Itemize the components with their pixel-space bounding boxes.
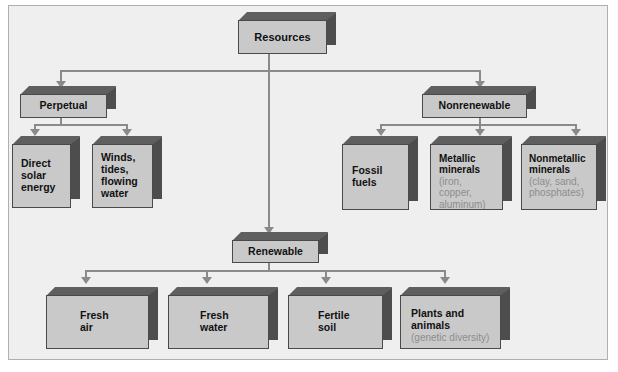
arrow-fresh-air	[81, 277, 91, 284]
node-plants-and-animals[interactable]: Plants and animals (genetic diversity)	[400, 287, 510, 349]
box-front-face: Nonmetallic minerals (clay, sand, phosph…	[521, 144, 597, 210]
connector-root-trunk	[268, 54, 270, 71]
box-front-face: Fresh water	[168, 295, 269, 349]
node-label-metallic-minerals: Metallic minerals	[439, 153, 502, 176]
connector-level1-bus	[60, 70, 481, 72]
node-nonrenewable[interactable]: Nonrenewable	[422, 86, 536, 118]
connector-perpetual-bus	[34, 124, 128, 126]
arrow-winds-tides-flowing-water	[122, 129, 132, 136]
node-label-nonmetallic-minerals: Nonmetallic minerals	[529, 153, 596, 176]
node-direct-solar-energy[interactable]: Direct solar energy	[12, 136, 80, 208]
box-side-face	[268, 287, 278, 340]
node-label-renewable: Renewable	[248, 246, 303, 258]
box-front-face: Nonrenewable	[422, 94, 527, 118]
box-side-face	[148, 287, 158, 340]
arrow-fossil-fuels	[376, 129, 386, 136]
box-side-face	[382, 287, 392, 340]
node-fossil-fuels[interactable]: Fossil fuels	[342, 136, 418, 210]
node-sublabel-nonmetallic-minerals: (clay, sand, phosphates)	[529, 176, 596, 199]
node-label-fossil-fuels: Fossil fuels	[352, 165, 382, 189]
box-front-face: Fertile soil	[288, 295, 383, 349]
node-label-resources: Resources	[254, 31, 310, 44]
node-label-direct-solar-energy: Direct solar energy	[21, 158, 55, 194]
box-front-face: Metallic minerals (iron, copper, aluminu…	[430, 144, 503, 210]
box-front-face: Fossil fuels	[342, 144, 409, 210]
box-side-face	[70, 136, 80, 199]
arrow-fertile-soil	[321, 277, 331, 284]
box-front-face: Perpetual	[20, 94, 107, 118]
box-front-face: Resources	[238, 20, 327, 54]
node-perpetual[interactable]: Perpetual	[20, 86, 116, 118]
diagram-canvas: Resources Perpetual Nonrenewable Renewab…	[0, 0, 618, 372]
node-label-fresh-air: Fresh air	[80, 310, 109, 334]
box-front-face: Fresh air	[46, 295, 149, 349]
arrow-plants-and-animals	[440, 277, 450, 284]
node-fresh-water[interactable]: Fresh water	[168, 287, 278, 349]
node-label-fertile-soil: Fertile soil	[318, 310, 350, 334]
node-sublabel-metallic-minerals: (iron, copper, aluminum)	[439, 176, 502, 210]
arrow-direct-solar-energy	[30, 129, 40, 136]
box-front-face: Renewable	[232, 240, 319, 263]
box-front-face: Plants and animals (genetic diversity)	[400, 295, 501, 349]
box-side-face	[500, 287, 510, 340]
node-label-fresh-water: Fresh water	[200, 310, 229, 334]
node-metallic-minerals[interactable]: Metallic minerals (iron, copper, aluminu…	[430, 136, 512, 210]
node-nonmetallic-minerals[interactable]: Nonmetallic minerals (clay, sand, phosph…	[521, 136, 606, 210]
box-side-face	[408, 136, 418, 201]
node-sublabel-plants-and-animals: (genetic diversity)	[411, 332, 500, 343]
node-fresh-air[interactable]: Fresh air	[46, 287, 158, 349]
node-label-plants-and-animals: Plants and animals	[411, 308, 500, 332]
box-side-face	[596, 136, 606, 201]
box-front-face: Direct solar energy	[12, 144, 71, 208]
arrow-nonmetallic-minerals	[571, 129, 581, 136]
node-label-winds-tides-flowing-water: Winds, tides, flowing water	[101, 152, 138, 200]
connector-renewable-bus	[85, 270, 446, 272]
node-renewable[interactable]: Renewable	[232, 232, 328, 263]
box-side-face	[152, 136, 162, 199]
box-front-face: Winds, tides, flowing water	[92, 144, 153, 208]
arrow-fresh-water	[202, 277, 212, 284]
node-label-perpetual: Perpetual	[40, 100, 88, 112]
node-resources[interactable]: Resources	[238, 12, 336, 54]
connector-to-renewable	[268, 70, 270, 231]
node-fertile-soil[interactable]: Fertile soil	[288, 287, 392, 349]
node-winds-tides-flowing-water[interactable]: Winds, tides, flowing water	[92, 136, 162, 208]
node-label-nonrenewable: Nonrenewable	[439, 100, 511, 112]
box-side-face	[502, 136, 512, 201]
arrow-metallic-minerals	[475, 129, 485, 136]
